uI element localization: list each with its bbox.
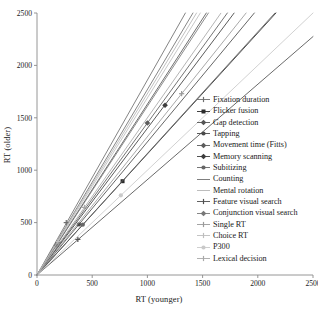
y-tick-label: 500 xyxy=(21,218,33,227)
legend-item-counting[interactable]: Counting xyxy=(196,173,318,184)
legend-item-label: Counting xyxy=(211,173,243,184)
x-tick-label: 2500 xyxy=(305,279,318,288)
y-tick-label: 2000 xyxy=(17,61,32,70)
legend-item-label: Lexical decision xyxy=(211,253,267,264)
y-tick-label: 0 xyxy=(28,271,32,280)
legend-item-label: Flicker fusion xyxy=(211,105,258,116)
legend-swatch-icon xyxy=(196,219,211,230)
legend-item-conjunction-visual-search[interactable]: Conjunction visual search xyxy=(196,207,318,218)
legend-swatch-icon xyxy=(196,174,211,185)
data-point-marker xyxy=(81,223,85,227)
legend-swatch-icon xyxy=(196,106,211,117)
legend-swatch-icon xyxy=(196,185,211,196)
legend-swatch-icon xyxy=(196,242,211,253)
legend-item-memory-scanning[interactable]: Memory scanning xyxy=(196,151,318,162)
regression-line xyxy=(37,13,193,275)
legend-item-label: Movement time (Fitts) xyxy=(211,139,287,150)
legend-swatch-icon xyxy=(196,196,211,207)
data-point-marker xyxy=(119,193,123,197)
legend-item-tapping[interactable]: Tapping xyxy=(196,128,318,139)
regression-line xyxy=(37,13,197,275)
x-tick-label: 1000 xyxy=(140,279,155,288)
legend-swatch-icon xyxy=(196,128,211,139)
legend-item-subitizing[interactable]: Subitizing xyxy=(196,162,318,173)
series-mental-rotation xyxy=(37,13,197,275)
legend-item-movement-time-fitts-[interactable]: Movement time (Fitts) xyxy=(196,139,318,150)
legend-item-label: Gap detection xyxy=(211,117,258,128)
legend-item-lexical-decision[interactable]: Lexical decision xyxy=(196,253,318,264)
x-tick-label: 500 xyxy=(87,279,99,288)
legend-item-p300[interactable]: P300 xyxy=(196,241,318,252)
regression-line xyxy=(37,13,200,275)
y-tick-label: 1500 xyxy=(17,114,32,123)
legend-item-single-rt[interactable]: Single RT xyxy=(196,219,318,230)
series-lexical-decision xyxy=(37,13,221,275)
legend-swatch-icon xyxy=(196,117,211,128)
legend-item-label: Subitizing xyxy=(211,162,246,173)
chart-legend: Fixation durationFlicker fusionGap detec… xyxy=(196,94,318,264)
legend-item-label: P300 xyxy=(211,241,230,252)
regression-line xyxy=(37,13,185,275)
legend-item-label: Choice RT xyxy=(211,230,248,241)
x-tick-label: 0 xyxy=(35,279,39,288)
regression-line xyxy=(37,13,208,275)
legend-item-fixation-duration[interactable]: Fixation duration xyxy=(196,94,318,105)
legend-swatch-icon xyxy=(196,208,211,219)
series-fixation-duration xyxy=(37,13,185,275)
legend-item-mental-rotation[interactable]: Mental rotation xyxy=(196,185,318,196)
legend-item-label: Fixation duration xyxy=(211,94,269,105)
legend-item-label: Single RT xyxy=(211,219,246,230)
legend-item-gap-detection[interactable]: Gap detection xyxy=(196,117,318,128)
legend-swatch-icon xyxy=(196,162,211,173)
y-tick-label: 1000 xyxy=(17,166,32,175)
legend-item-label: Feature visual search xyxy=(211,196,282,207)
legend-item-label: Memory scanning xyxy=(211,151,272,162)
y-axis-title: RT (older) xyxy=(2,110,12,180)
x-axis-title: RT (younger) xyxy=(0,294,318,304)
x-tick-label: 2000 xyxy=(250,279,265,288)
legend-item-label: Conjunction visual search xyxy=(211,207,298,218)
regression-line xyxy=(37,13,221,275)
brinley-plot-figure: 0500100015002000250005001000150020002500… xyxy=(0,0,318,312)
series-conjunction-visual-search xyxy=(37,13,208,275)
series-choice-rt xyxy=(37,13,200,275)
legend-swatch-icon xyxy=(196,230,211,241)
legend-swatch-icon xyxy=(196,140,211,151)
legend-item-label: Tapping xyxy=(211,128,240,139)
legend-item-flicker-fusion[interactable]: Flicker fusion xyxy=(196,105,318,116)
legend-item-choice-rt[interactable]: Choice RT xyxy=(196,230,318,241)
x-tick-label: 1500 xyxy=(195,279,210,288)
legend-swatch-icon xyxy=(196,151,211,162)
series-counting xyxy=(37,13,193,275)
legend-swatch-icon xyxy=(196,253,211,264)
legend-item-label: Mental rotation xyxy=(211,185,263,196)
y-tick-label: 2500 xyxy=(17,9,32,18)
legend-swatch-icon xyxy=(196,94,211,105)
legend-item-feature-visual-search[interactable]: Feature visual search xyxy=(196,196,318,207)
